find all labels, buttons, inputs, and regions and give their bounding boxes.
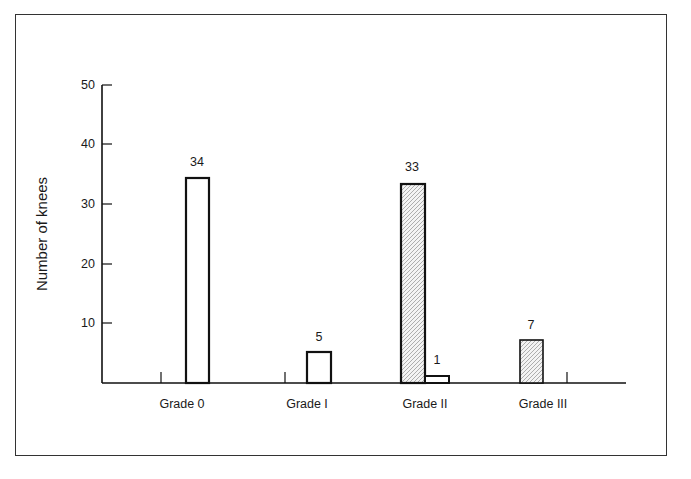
value-label-grade-1: 5 [316,330,323,344]
y-tick-50: 50 [81,78,95,92]
value-label-grade-0: 34 [190,155,204,169]
value-label-grade-3: 7 [528,318,535,332]
y-tick-10: 10 [81,316,95,330]
bar-grade-3-hatched [520,340,543,383]
value-label-grade-2-hatched: 33 [405,160,419,174]
x-label-grade-0: Grade 0 [159,397,204,411]
x-label-grade-2: Grade II [402,397,447,411]
y-tick-40: 40 [81,137,95,151]
bar-grade-1-white [307,352,331,383]
bar-grade-0-white [186,178,209,383]
value-label-grade-2-white: 1 [434,353,441,367]
bar-chart: 50 40 30 20 10 Number of knees Grade 0 G… [0,0,691,479]
y-axis: 50 40 30 20 10 Number of knees [33,78,112,383]
bar-grade-2-white [425,376,449,383]
x-label-grade-3: Grade III [519,397,568,411]
bar-grade-2-hatched [401,184,425,383]
y-axis-label: Number of knees [33,177,50,291]
y-tick-20: 20 [81,257,95,271]
x-label-grade-1: Grade I [286,397,328,411]
y-tick-30: 30 [81,197,95,211]
bars: 34 5 33 1 7 [186,155,543,383]
x-axis: Grade 0 Grade I Grade II Grade III [102,372,626,411]
